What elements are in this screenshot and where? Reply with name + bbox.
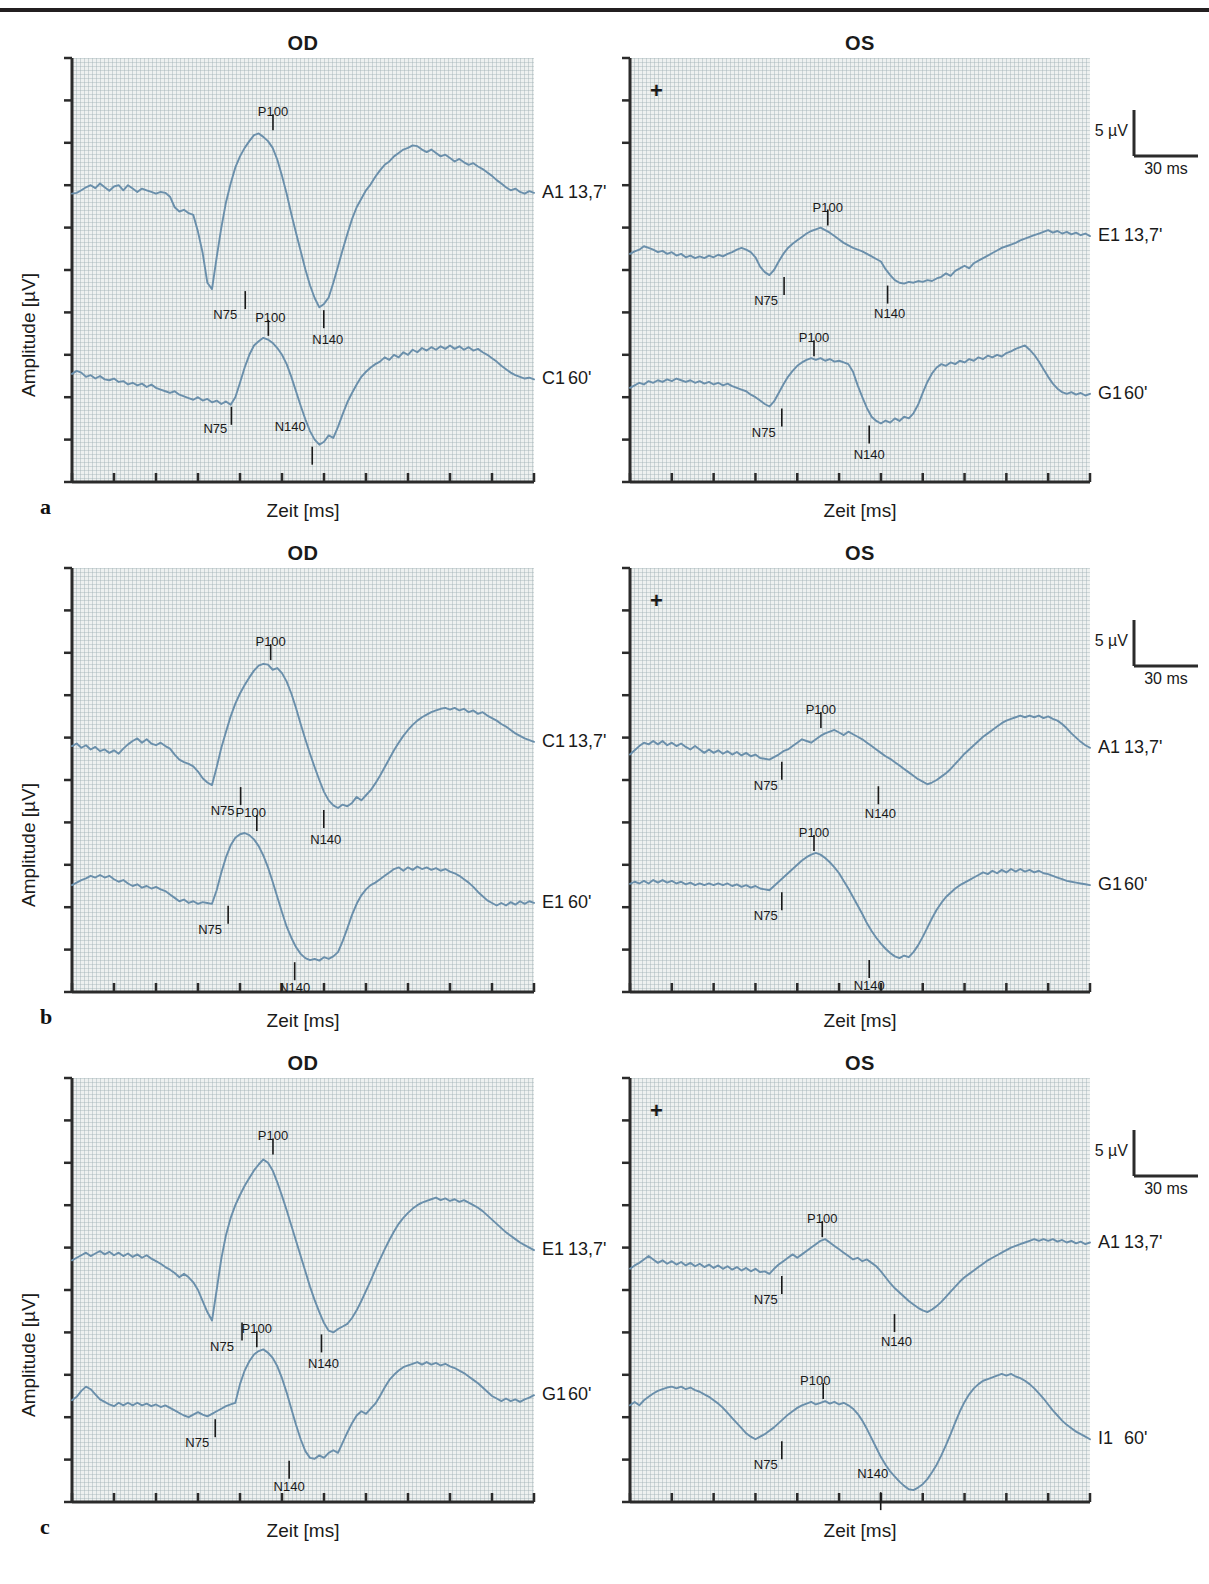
peak-label-p100: P100 — [258, 104, 288, 119]
trace-legend-g1: G160' — [542, 1384, 591, 1405]
trace-stimulus-size: 13,7' — [568, 182, 606, 202]
trace-channel-name: E1 — [1098, 225, 1124, 246]
peak-label-n75: N75 — [752, 425, 776, 440]
x-axis-label: Zeit [ms] — [630, 1520, 1090, 1542]
trace-stimulus-size: 13,7' — [1124, 225, 1162, 245]
trace-channel-name: E1 — [542, 892, 568, 913]
trace-legend-a1: A113,7' — [1098, 737, 1162, 758]
peak-label-n140: N140 — [865, 806, 896, 821]
peak-label-n140: N140 — [310, 832, 341, 847]
trace-channel-name: A1 — [1098, 737, 1124, 758]
peak-label-p100: P100 — [258, 1128, 288, 1143]
trace-legend-c1: C160' — [542, 368, 591, 389]
peak-label-n75: N75 — [754, 1292, 778, 1307]
waveform-trace-a1 — [630, 1239, 1090, 1312]
panel-letter-c: c — [40, 1514, 50, 1540]
waveform-trace-a1 — [630, 716, 1090, 785]
scale-bar-amplitude-label: 5 µV — [1080, 1142, 1128, 1160]
peak-label-n75: N75 — [198, 922, 222, 937]
peak-label-p100: P100 — [799, 825, 829, 840]
waveform-trace-e1 — [630, 228, 1090, 284]
x-axis-label: Zeit [ms] — [72, 1520, 534, 1542]
scale-bar-time-label: 30 ms — [1132, 670, 1200, 688]
peak-label-n140: N140 — [308, 1356, 339, 1371]
scale-bar: 5 µV30 ms — [1132, 618, 1204, 678]
scale-bar-amplitude-label: 5 µV — [1080, 122, 1128, 140]
trace-stimulus-size: 60' — [568, 1384, 591, 1404]
trace-legend-e1: E113,7' — [1098, 225, 1162, 246]
trace-stimulus-size: 60' — [568, 368, 591, 388]
scale-bar-time-label: 30 ms — [1132, 160, 1200, 178]
plot-title-os: OS — [630, 1052, 1090, 1075]
plot-title-os: OS — [630, 32, 1090, 55]
plot-title-od: OD — [72, 32, 534, 55]
waveform-layer: N75P100N140N75P100N140 — [630, 58, 1090, 482]
peak-label-n140: N140 — [854, 978, 885, 993]
peak-label-n75: N75 — [213, 307, 237, 322]
waveform-layer: N75P100N140N75P100N140 — [630, 568, 1090, 992]
waveform-trace-c1 — [72, 664, 534, 808]
waveform-trace-e1 — [72, 833, 534, 961]
scale-bar: 5 µV30 ms — [1132, 108, 1204, 168]
trace-stimulus-size: 13,7' — [1124, 737, 1162, 757]
peak-label-p100: P100 — [806, 702, 836, 717]
peak-label-n75: N75 — [754, 778, 778, 793]
peak-label-n140: N140 — [279, 980, 310, 995]
scale-bar: 5 µV30 ms — [1132, 1128, 1204, 1188]
trace-legend-g1: G160' — [1098, 874, 1147, 895]
plot-title-os: OS — [630, 542, 1090, 565]
peak-label-p100: P100 — [799, 330, 829, 345]
vep-figure: Amplitude [µV]aODA113,7'C160'N75P100N140… — [0, 0, 1209, 1584]
peak-label-n75: N75 — [210, 1339, 234, 1354]
peak-label-n75: N75 — [203, 421, 227, 436]
peak-label-p100: P100 — [236, 805, 266, 820]
peak-label-n75: N75 — [754, 908, 778, 923]
waveform-layer: N75P100N140N75P100N140 — [72, 58, 534, 482]
scale-bar-amplitude-label: 5 µV — [1080, 632, 1128, 650]
trace-stimulus-size: 60' — [1124, 1428, 1147, 1448]
trace-channel-name: I1 — [1098, 1428, 1124, 1449]
peak-label-p100: P100 — [242, 1321, 272, 1336]
waveform-trace-g1 — [72, 1349, 534, 1458]
peak-label-n75: N75 — [754, 293, 778, 308]
peak-label-n75: N75 — [185, 1435, 209, 1450]
trace-stimulus-size: 13,7' — [568, 731, 606, 751]
y-axis-label: Amplitude [µV] — [18, 1293, 40, 1417]
waveform-trace-e1 — [72, 1159, 534, 1332]
waveform-trace-g1 — [630, 345, 1090, 423]
trace-channel-name: C1 — [542, 368, 568, 389]
trace-stimulus-size: 60' — [1124, 383, 1147, 403]
y-axis-label: Amplitude [µV] — [18, 273, 40, 397]
peak-label-n140: N140 — [857, 1466, 888, 1481]
figure-panel-c: Amplitude [µV]cODE113,7'G160'N75P100N140… — [0, 1020, 1209, 1530]
trace-legend-e1: E113,7' — [542, 1239, 606, 1260]
trace-channel-name: C1 — [542, 731, 568, 752]
peak-label-n75: N75 — [211, 803, 235, 818]
peak-label-n140: N140 — [874, 306, 905, 321]
peak-label-n140: N140 — [275, 419, 306, 434]
scale-bar-time-label: 30 ms — [1132, 1180, 1200, 1198]
peak-label-p100: P100 — [255, 634, 285, 649]
peak-label-n140: N140 — [881, 1334, 912, 1349]
peak-label-p100: P100 — [807, 1211, 837, 1226]
trace-channel-name: G1 — [1098, 383, 1124, 404]
waveform-layer: N75P100N140N75P100N140 — [72, 1078, 534, 1502]
peak-label-p100: P100 — [255, 310, 285, 325]
trace-legend-e1: E160' — [542, 892, 591, 913]
waveform-trace-g1 — [630, 853, 1090, 958]
waveform-trace-a1 — [72, 133, 534, 307]
trace-legend-a1: A113,7' — [542, 182, 606, 203]
trace-stimulus-size: 13,7' — [1124, 1232, 1162, 1252]
trace-channel-name: A1 — [542, 182, 568, 203]
plot-title-od: OD — [72, 542, 534, 565]
waveform-layer: N75P100N140N75P100N140 — [630, 1078, 1090, 1502]
y-axis-label: Amplitude [µV] — [18, 783, 40, 907]
peak-label-n140: N140 — [854, 447, 885, 462]
trace-channel-name: G1 — [542, 1384, 568, 1405]
trace-channel-name: A1 — [1098, 1232, 1124, 1253]
plot-title-od: OD — [72, 1052, 534, 1075]
trace-channel-name: E1 — [542, 1239, 568, 1260]
waveform-layer: N75P100N140N75P100N140 — [72, 568, 534, 992]
trace-legend-i1: I160' — [1098, 1428, 1147, 1449]
peak-label-p100: P100 — [813, 200, 843, 215]
